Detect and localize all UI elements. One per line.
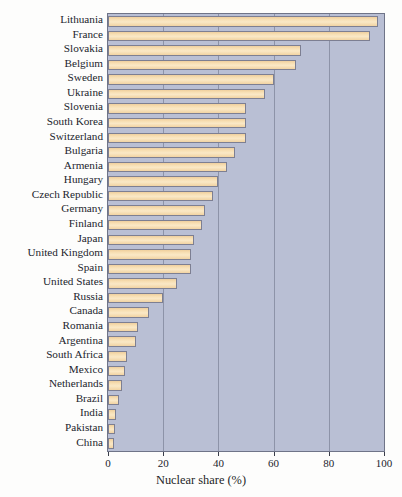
category-label-bulgaria: Bulgaria: [0, 145, 103, 156]
bar-row: [108, 393, 384, 408]
category-label-japan: Japan: [0, 233, 103, 244]
bar-row: [108, 233, 384, 248]
bar-canada: [108, 307, 149, 317]
bar-south-africa: [108, 351, 127, 361]
bar-lithuania: [108, 16, 378, 26]
xtick-label-100: 100: [376, 457, 393, 469]
category-label-argentina: Argentina: [0, 335, 103, 346]
bar-row: [108, 43, 384, 58]
bar-czech-republic: [108, 191, 213, 201]
bar-row: [108, 72, 384, 87]
bar-row: [108, 276, 384, 291]
category-label-netherlands: Netherlands: [0, 378, 103, 389]
bar-armenia: [108, 162, 227, 172]
bar-china: [108, 438, 114, 448]
bar-russia: [108, 293, 163, 303]
bar-slovenia: [108, 103, 246, 113]
bar-bulgaria: [108, 147, 235, 157]
bar-row: [108, 203, 384, 218]
bar-slovakia: [108, 45, 301, 55]
category-label-germany: Germany: [0, 203, 103, 214]
category-label-canada: Canada: [0, 305, 103, 316]
category-label-lithuania: Lithuania: [0, 14, 103, 25]
bar-row: [108, 29, 384, 44]
xtick-label-80: 80: [323, 457, 334, 469]
xtick-mark-20: [163, 452, 164, 456]
bar-row: [108, 174, 384, 189]
category-label-france: France: [0, 29, 103, 40]
bar-row: [108, 422, 384, 437]
category-label-south-korea: South Korea: [0, 116, 103, 127]
category-label-spain: Spain: [0, 262, 103, 273]
bar-switzerland: [108, 133, 246, 143]
bar-row: [108, 87, 384, 102]
bar-brazil: [108, 395, 119, 405]
category-label-armenia: Armenia: [0, 160, 103, 171]
bar-series: [108, 14, 384, 451]
bar-pakistan: [108, 424, 115, 434]
category-axis-labels: LithuaniaFranceSlovakiaBelgiumSwedenUkra…: [0, 13, 103, 452]
bar-spain: [108, 264, 191, 274]
bar-row: [108, 58, 384, 73]
bar-row: [108, 218, 384, 233]
bar-germany: [108, 205, 205, 215]
category-label-russia: Russia: [0, 291, 103, 302]
bar-row: [108, 436, 384, 451]
bar-row: [108, 320, 384, 335]
bar-row: [108, 364, 384, 379]
bar-sweden: [108, 74, 274, 84]
xtick-mark-80: [329, 452, 330, 456]
bar-japan: [108, 235, 194, 245]
xtick-mark-0: [108, 452, 109, 456]
bar-romania: [108, 322, 138, 332]
category-label-pakistan: Pakistan: [0, 422, 103, 433]
bar-row: [108, 14, 384, 29]
xtick-mark-100: [384, 452, 385, 456]
plot-area: [107, 13, 385, 452]
category-label-india: India: [0, 407, 103, 418]
category-label-belgium: Belgium: [0, 58, 103, 69]
bar-south-korea: [108, 118, 246, 128]
xtick-label-0: 0: [105, 457, 111, 469]
xtick-label-60: 60: [268, 457, 279, 469]
gridline-100: [384, 14, 385, 451]
bar-netherlands: [108, 380, 122, 390]
bar-row: [108, 101, 384, 116]
bar-row: [108, 247, 384, 262]
bar-row: [108, 160, 384, 175]
category-label-romania: Romania: [0, 320, 103, 331]
category-label-china: China: [0, 437, 103, 448]
category-label-hungary: Hungary: [0, 174, 103, 185]
xtick-mark-60: [274, 452, 275, 456]
bar-row: [108, 189, 384, 204]
category-label-brazil: Brazil: [0, 393, 103, 404]
category-label-slovenia: Slovenia: [0, 101, 103, 112]
bar-argentina: [108, 336, 136, 346]
bar-united-states: [108, 278, 177, 288]
bar-row: [108, 131, 384, 146]
bar-row: [108, 305, 384, 320]
xtick-label-40: 40: [213, 457, 224, 469]
category-label-slovakia: Slovakia: [0, 43, 103, 54]
bar-hungary: [108, 176, 218, 186]
xtick-label-20: 20: [158, 457, 169, 469]
bar-ukraine: [108, 89, 265, 99]
bar-row: [108, 145, 384, 160]
bar-mexico: [108, 366, 125, 376]
x-axis-title: Nuclear share (%): [0, 473, 402, 488]
category-label-switzerland: Switzerland: [0, 131, 103, 142]
bar-row: [108, 407, 384, 422]
category-label-mexico: Mexico: [0, 364, 103, 375]
category-label-czech-republic: Czech Republic: [0, 189, 103, 200]
bar-india: [108, 409, 116, 419]
category-label-united-kingdom: United Kingdom: [0, 247, 103, 258]
bar-row: [108, 116, 384, 131]
bar-united-kingdom: [108, 249, 191, 259]
category-label-ukraine: Ukraine: [0, 87, 103, 98]
bar-row: [108, 334, 384, 349]
xtick-mark-40: [218, 452, 219, 456]
bar-finland: [108, 220, 202, 230]
bar-row: [108, 262, 384, 277]
category-label-finland: Finland: [0, 218, 103, 229]
bar-belgium: [108, 60, 296, 70]
